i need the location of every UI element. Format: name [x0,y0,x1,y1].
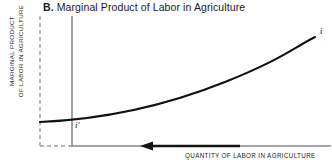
figure-panel-b: B. Marginal Product of Labor in Agricult… [0,0,332,165]
curve-point-label-i-prime: i' [75,120,79,130]
x-axis-label: QUANTITY OF LABOR IN AGRICULTURE [185,152,316,159]
direction-arrow-icon [140,142,240,151]
marginal-product-curve [40,37,315,122]
curve-endpoint-label-i: i [320,26,323,36]
plot-area [0,0,332,165]
